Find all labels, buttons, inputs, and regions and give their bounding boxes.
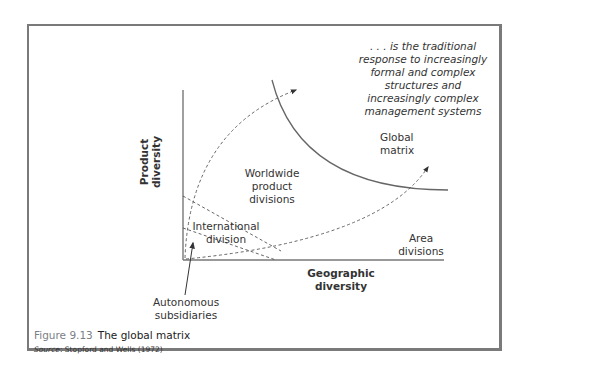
annotation-line5: increasingly complex <box>333 92 513 105</box>
y-axis-label: Product diversity <box>138 132 162 192</box>
figure-source: Source: Stopford and Wells (1972) <box>34 345 163 354</box>
area-label-line2: divisions <box>386 245 456 258</box>
annotation-line6: management systems <box>333 105 513 118</box>
international-label-line1: International <box>186 220 266 233</box>
autonomous-label-line2: subsidiaries <box>148 309 224 322</box>
global-matrix-label-line1: Global <box>380 131 414 144</box>
y-axis-label-line2: diversity <box>150 132 162 192</box>
annotation-line2: response to increasingly <box>333 53 513 66</box>
source-text: : Stopford and Wells (1972) <box>60 345 163 354</box>
worldwide-label-line3: divisions <box>237 193 307 206</box>
annotation-line1: . . . is the traditional <box>333 40 513 53</box>
figure-title: The global matrix <box>98 329 190 341</box>
annotation-text: . . . is the traditional response to inc… <box>333 40 513 118</box>
autonomous-subsidiaries-arrow <box>185 243 193 295</box>
international-label-line2: division <box>186 233 266 246</box>
y-axis-label-line1: Product <box>138 132 150 192</box>
worldwide-product-divisions-label: Worldwide product divisions <box>237 167 307 206</box>
global-matrix-label-line2: matrix <box>380 144 414 157</box>
autonomous-subsidiaries-label: Autonomous subsidiaries <box>148 296 224 322</box>
annotation-line4: structures and <box>333 79 513 92</box>
autonomous-label-line1: Autonomous <box>148 296 224 309</box>
annotation-line3: formal and complex <box>333 66 513 79</box>
worldwide-label-line1: Worldwide <box>237 167 307 180</box>
figure-caption: Figure 9.13The global matrix <box>34 329 190 341</box>
x-axis-label-line1: Geographic <box>296 267 386 280</box>
area-label-line1: Area <box>386 232 456 245</box>
source-label: Source <box>34 345 60 354</box>
figure-number: Figure 9.13 <box>34 329 93 341</box>
global-matrix-label: Global matrix <box>380 131 414 157</box>
x-axis-label-line2: diversity <box>296 280 386 293</box>
x-axis-label: Geographic diversity <box>296 267 386 293</box>
area-divisions-label: Area divisions <box>386 232 456 258</box>
international-division-label: International division <box>186 220 266 246</box>
worldwide-label-line2: product <box>237 180 307 193</box>
